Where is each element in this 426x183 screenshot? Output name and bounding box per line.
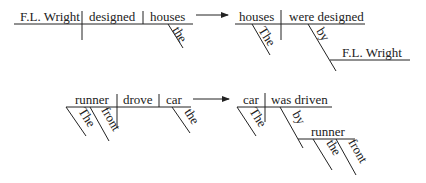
object-word: car xyxy=(166,92,183,107)
prep-object-word: runner xyxy=(311,124,346,139)
modifier-word: the xyxy=(169,24,190,46)
diagram-active-2: runner drove car The front the xyxy=(66,92,203,141)
modifier-word: front xyxy=(345,136,371,166)
diagram-passive-1: houses were designed The by F.L. Wright xyxy=(235,9,410,71)
verb-word: were designed xyxy=(289,9,364,24)
diagram-passive-2: car was driven The by runner the front xyxy=(237,92,371,175)
verb-word: was driven xyxy=(271,92,328,107)
subject-word: F.L. Wright xyxy=(20,9,80,24)
sentence-diagrams: F.L. Wright designed houses the houses w… xyxy=(0,0,426,183)
preposition-word: by xyxy=(313,25,333,44)
verb-word: drove xyxy=(123,92,153,107)
preposition-word: by xyxy=(289,108,309,127)
subject-word: runner xyxy=(75,92,110,107)
verb-word: designed xyxy=(89,9,136,24)
subject-word: houses xyxy=(239,9,274,24)
modifier-word: the xyxy=(181,105,202,127)
modifier-word: The xyxy=(255,24,279,49)
diagram-active-1: F.L. Wright designed houses the xyxy=(14,9,193,48)
subject-word: car xyxy=(243,92,260,107)
object-word: houses xyxy=(150,9,185,24)
modifier-word: the xyxy=(323,137,344,159)
prep-object-word: F.L. Wright xyxy=(342,45,402,60)
